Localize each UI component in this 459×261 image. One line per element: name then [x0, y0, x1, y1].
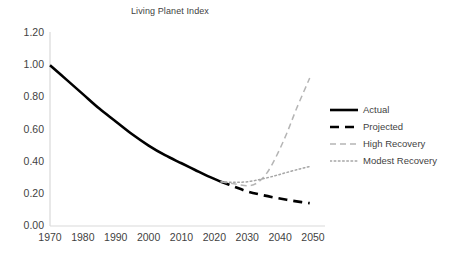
y-axis-tick-label: 0.60 — [10, 123, 44, 135]
series-lines — [50, 65, 310, 203]
legend-item-label: High Recovery — [363, 138, 425, 150]
legend-item-projected[interactable]: Projected — [330, 118, 459, 135]
y-axis-tick-label: 1.20 — [10, 26, 44, 38]
series-line-projected — [221, 182, 310, 203]
legend-line-sample-icon — [330, 138, 358, 150]
legend-item-modest-recovery[interactable]: Modest Recovery — [330, 152, 459, 169]
x-axis-tick-label: 2050 — [293, 231, 333, 243]
legend-item-label: Projected — [363, 121, 403, 133]
legend-item-label: Actual — [363, 104, 389, 116]
legend-item-actual[interactable]: Actual — [330, 101, 459, 118]
series-line-actual — [50, 65, 221, 182]
y-axis-tick-label: 1.00 — [10, 58, 44, 70]
legend-line-sample-icon — [330, 121, 358, 133]
chart-legend: ActualProjectedHigh RecoveryModest Recov… — [330, 101, 459, 169]
legend-line-sample-icon — [330, 155, 358, 167]
y-axis-tick-label: 0.20 — [10, 187, 44, 199]
y-axis-tick-label: 0.80 — [10, 90, 44, 102]
legend-item-high-recovery[interactable]: High Recovery — [330, 135, 459, 152]
y-axis-tick-label: 0.40 — [10, 155, 44, 167]
series-line-modest-recovery — [221, 166, 310, 182]
y-axis-tick-label: 0.00 — [10, 219, 44, 231]
legend-item-label: Modest Recovery — [363, 155, 437, 167]
legend-line-sample-icon — [330, 104, 358, 116]
axis-lines — [50, 32, 325, 226]
chart-container: Living Planet Index 0.000.200.400.600.80… — [0, 0, 459, 261]
